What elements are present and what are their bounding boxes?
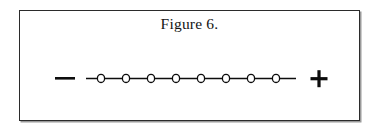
figure-root: Figure 6. [0, 0, 378, 131]
node-marker [172, 74, 179, 82]
node-marker [147, 74, 154, 82]
scale-diagram [20, 11, 359, 120]
node-marker [197, 74, 204, 82]
node-marker [122, 74, 129, 82]
scale-diagram-svg [20, 11, 359, 120]
node-marker [222, 74, 229, 82]
plus-pole-icon [311, 70, 328, 87]
node-marker [247, 74, 254, 82]
node-marker [272, 74, 279, 82]
node-marker [97, 74, 104, 82]
figure-border-frame: Figure 6. [19, 10, 360, 121]
minus-pole-icon [55, 77, 75, 80]
